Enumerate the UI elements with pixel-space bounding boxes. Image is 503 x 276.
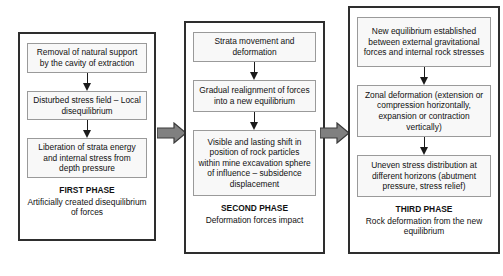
step-box: Removal of natural support by the cavity… (27, 43, 147, 73)
step-box: Disturbed stress field – Local disequili… (27, 91, 147, 120)
phase-subtitle: Deformation forces impact (206, 215, 304, 226)
block-arrow-right-icon (157, 122, 187, 144)
phase-container-second: Strata movement and deformation Gradual … (184, 21, 325, 254)
phase-container-first: Removal of natural support by the cavity… (18, 32, 156, 241)
down-arrow-icon (420, 67, 429, 85)
phase-caption: SECOND PHASE Deformation forces impact (202, 203, 308, 225)
step-box: Zonal deformation (extension or compress… (357, 85, 491, 137)
phase-container-third: New equilibrium established between exte… (348, 6, 500, 254)
step-box: Strata movement and deformation (193, 32, 316, 62)
phase-title: FIRST PHASE (24, 185, 150, 196)
phase-flow-diagram: Removal of natural support by the cavity… (0, 0, 503, 276)
down-arrow-icon (250, 62, 259, 80)
phase-subtitle: Artificially created disequilibrium of f… (24, 197, 150, 218)
phase-caption: FIRST PHASE Artificially created disequi… (20, 185, 154, 218)
step-box: Gradual realignment of forces into a new… (193, 80, 316, 112)
step-box: Uneven stress distribution at different … (357, 155, 491, 197)
block-arrow-right-icon (320, 122, 350, 144)
phase-subtitle: Rock deformation from the new equilibriu… (354, 216, 494, 237)
down-arrow-icon (83, 120, 92, 138)
step-box: Visible and lasting shift in position of… (193, 130, 316, 196)
phase-title: SECOND PHASE (206, 203, 304, 214)
down-arrow-icon (250, 112, 259, 130)
down-arrow-icon (420, 137, 429, 155)
phase-caption: THIRD PHASE Rock deformation from the ne… (350, 204, 498, 237)
down-arrow-icon (83, 73, 92, 91)
step-box: New equilibrium established between exte… (357, 17, 491, 67)
phase-title: THIRD PHASE (354, 204, 494, 215)
step-box: Liberation of strata energy and internal… (27, 138, 147, 178)
